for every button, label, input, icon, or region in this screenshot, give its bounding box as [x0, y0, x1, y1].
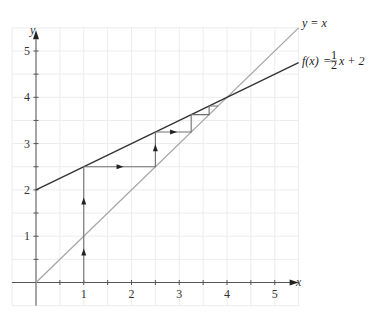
y-tick-label: 2: [24, 183, 30, 197]
y-tick-label: 1: [24, 229, 30, 243]
x-tick-label: 2: [129, 287, 135, 301]
x-tick-label: 4: [224, 287, 230, 301]
function-name: f(x): [302, 54, 319, 68]
svg-text:x + 2: x + 2: [338, 54, 364, 68]
identity-line-label: y = x: [301, 16, 327, 30]
fraction-denominator: 2: [331, 58, 337, 72]
x-tick-label: 1: [81, 287, 87, 301]
y-tick-label: 3: [24, 137, 30, 151]
function-label: f(x) = 1 2 x + 2: [302, 48, 364, 72]
function-line: [36, 63, 299, 190]
arrow-right-icon: [170, 130, 177, 135]
function-equals: =: [324, 54, 331, 68]
arrow-up-icon: [81, 248, 86, 255]
svg-text:f(x) =: f(x) =: [302, 54, 331, 68]
x-tick-label: 5: [272, 287, 278, 301]
arrow-up-icon: [153, 144, 158, 151]
identity-line: [36, 28, 299, 283]
identity-line-text: y = x: [301, 16, 327, 30]
x-tick-label: 3: [176, 287, 182, 301]
cobweb-path: [84, 106, 218, 283]
y-tick-label: 5: [24, 44, 30, 58]
arrow-right-icon: [117, 164, 124, 169]
x-axis-label: x: [295, 275, 302, 289]
y-tick-label: 4: [24, 90, 30, 104]
y-axis-label: y: [29, 23, 36, 37]
function-rest: x + 2: [338, 54, 364, 68]
series: [36, 28, 299, 283]
arrow-up-icon: [81, 197, 86, 204]
tick-labels: 1234512345: [24, 44, 278, 301]
cobweb-chart: 1234512345 y x y = x f(x) = 1 2 x + 2: [0, 0, 374, 318]
